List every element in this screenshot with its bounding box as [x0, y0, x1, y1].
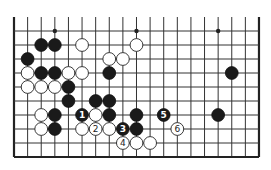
black-stone-icon [48, 39, 61, 52]
white-stone-icon [103, 123, 116, 136]
black-stone-icon [62, 81, 75, 94]
move-number-label: 1 [79, 110, 85, 120]
white-stone-icon [21, 67, 34, 80]
white-stone [116, 53, 129, 66]
white-stone-icon [89, 109, 102, 122]
black-stone [130, 123, 143, 136]
white-stone [130, 39, 143, 52]
white-stone [103, 123, 116, 136]
black-stone-icon [103, 95, 116, 108]
black-stone-icon [212, 109, 225, 122]
white-stone-icon [35, 109, 48, 122]
white-stone [103, 53, 116, 66]
white-stone: 2 [89, 123, 102, 136]
white-stone [62, 67, 75, 80]
white-stone-icon [76, 39, 89, 52]
black-stone [21, 53, 34, 66]
move-number-label: 6 [174, 124, 180, 134]
black-stone [62, 95, 75, 108]
black-stone-icon [103, 109, 116, 122]
black-stone [89, 95, 102, 108]
white-stone-icon [130, 39, 143, 52]
go-board-diagram: 152364 [0, 0, 271, 170]
black-stone-icon [48, 123, 61, 136]
star-point-icon [216, 29, 220, 33]
black-stone [35, 39, 48, 52]
black-stone: 1 [76, 109, 89, 122]
white-stone [89, 109, 102, 122]
black-stone [48, 67, 61, 80]
black-stone-icon [35, 67, 48, 80]
white-stone [35, 109, 48, 122]
white-stone [35, 81, 48, 94]
black-stone-icon [130, 109, 143, 122]
white-stone-icon [130, 137, 143, 150]
white-stone [76, 67, 89, 80]
white-stone [144, 137, 157, 150]
white-stone-icon [76, 67, 89, 80]
star-point-icon [53, 29, 57, 33]
black-stone [62, 81, 75, 94]
black-stone [103, 109, 116, 122]
white-stone [21, 81, 34, 94]
white-stone-icon [76, 123, 89, 136]
black-stone-icon [130, 123, 143, 136]
black-stone [48, 39, 61, 52]
move-number-label: 2 [93, 124, 99, 134]
black-stone [103, 95, 116, 108]
move-number-label: 4 [120, 138, 126, 148]
black-stone [212, 109, 225, 122]
black-stone [103, 67, 116, 80]
white-stone [35, 123, 48, 136]
black-stone-icon [225, 67, 238, 80]
white-stone-icon [116, 53, 129, 66]
black-stone [35, 67, 48, 80]
black-stone-icon [35, 39, 48, 52]
white-stone [21, 67, 34, 80]
black-stone [225, 67, 238, 80]
move-number-label: 5 [161, 110, 167, 120]
white-stone-icon [48, 81, 61, 94]
black-stone-icon [48, 109, 61, 122]
white-stone-icon [103, 53, 116, 66]
black-stone-icon [48, 67, 61, 80]
white-stone-icon [144, 137, 157, 150]
white-stone [130, 137, 143, 150]
white-stone-icon [62, 67, 75, 80]
black-stone: 3 [116, 123, 129, 136]
stones-layer: 152364 [21, 39, 238, 150]
black-stone-icon [21, 53, 34, 66]
black-stone-icon [103, 67, 116, 80]
white-stone-icon [35, 123, 48, 136]
white-stone [76, 39, 89, 52]
black-stone [48, 109, 61, 122]
white-stone-icon [35, 81, 48, 94]
black-stone [130, 109, 143, 122]
black-stone [48, 123, 61, 136]
black-stone-icon [89, 95, 102, 108]
white-stone: 6 [171, 123, 184, 136]
white-stone-icon [21, 81, 34, 94]
black-stone-icon [62, 95, 75, 108]
star-point-icon [134, 29, 138, 33]
white-stone [48, 81, 61, 94]
white-stone [76, 123, 89, 136]
move-number-label: 3 [120, 124, 126, 134]
white-stone: 4 [116, 137, 129, 150]
black-stone: 5 [157, 109, 170, 122]
